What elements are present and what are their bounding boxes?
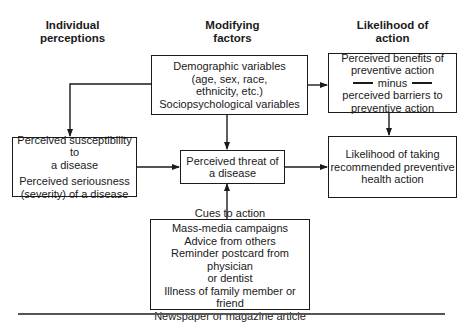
box-perceived-threat: Perceived threat of a disease <box>180 150 285 184</box>
minus-separator: minus <box>353 77 432 90</box>
cue-item: or dentist <box>207 272 252 285</box>
box-text-line: Perceived susceptibility to <box>13 134 136 159</box>
bottom-divider <box>18 313 445 315</box>
cue-item: Mass-media campaigns <box>172 222 288 235</box>
minus-label: minus <box>378 77 407 90</box>
cue-item: Newspaper or magazine article <box>154 310 306 323</box>
cues-title: Cues to action <box>195 207 265 220</box>
box-text-line: ethnicity, etc.) <box>196 85 263 98</box>
box-text-line: Perceived seriousness <box>19 175 130 188</box>
cue-item: Illness of family member or friend <box>151 285 309 310</box>
box-text-line: (age, sex, race, <box>192 73 268 86</box>
cue-item: Advice from others <box>184 235 276 248</box>
box-text-line: Likelihood of taking <box>345 148 439 161</box>
box-text-line: Perceived benefits of <box>341 52 444 65</box>
box-text-line: Perceived threat of <box>186 155 278 168</box>
box-text-line: preventive action <box>351 102 434 115</box>
box-text-line: Demographic variables <box>173 60 286 73</box>
box-text-line: health action <box>361 173 423 186</box>
box-text-line: a disease <box>51 159 98 172</box>
box-cues-to-action: Cues to action Mass-media campaigns Advi… <box>150 219 310 310</box>
box-demographic-variables: Demographic variables (age, sex, race, e… <box>151 55 308 115</box>
box-text-line: perceived barriers to <box>342 89 442 102</box>
box-text-line: recommended preventive <box>330 161 454 174</box>
dash-line <box>353 82 373 83</box>
box-text-line: (severity) of a disease <box>21 188 129 201</box>
box-text-line: preventive action <box>351 64 434 77</box>
box-text-line: Sociopsychological variables <box>159 98 300 111</box>
box-likelihood-of-action: Likelihood of taking recommended prevent… <box>328 136 457 198</box>
box-perceived-susceptibility: Perceived susceptibility to a disease Pe… <box>12 137 137 197</box>
box-perceived-benefits-barriers: Perceived benefits of preventive action … <box>328 53 457 113</box>
cue-item: Reminder postcard from physician <box>151 247 309 272</box>
box-text-line: a disease <box>209 167 256 180</box>
dash-line <box>412 82 432 83</box>
